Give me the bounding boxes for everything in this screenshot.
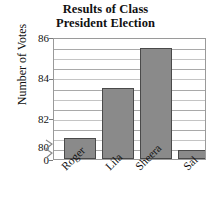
y-tick-label-82: 82	[23, 114, 49, 125]
y-axis-tick-labels: 86 84 82 80 0	[21, 0, 49, 199]
y-tick-label-86: 86	[23, 33, 49, 44]
bar-lila[interactable]	[102, 88, 134, 159]
plot-area	[53, 38, 206, 160]
y-tick-label-84: 84	[23, 73, 49, 84]
x-axis-tick-labels: Roger Lila Sheera Sal	[53, 160, 206, 199]
bar-chart: Results of Class President Election Numb…	[0, 0, 211, 199]
bars-layer	[54, 39, 205, 159]
